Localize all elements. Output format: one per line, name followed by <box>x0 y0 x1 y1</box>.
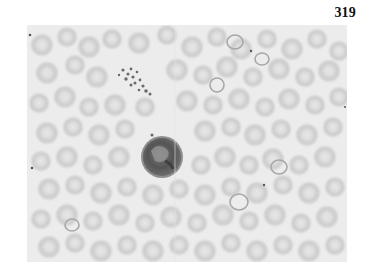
page-number: 319 <box>334 5 356 21</box>
blood-smear-micrograph <box>27 25 347 262</box>
micrograph-image <box>27 25 347 262</box>
